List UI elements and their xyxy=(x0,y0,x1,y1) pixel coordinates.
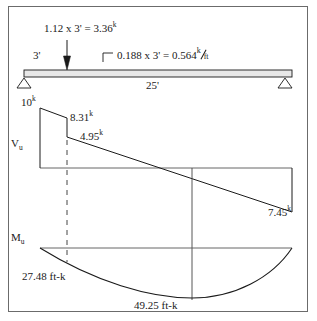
dist-load-leader-line xyxy=(103,53,113,62)
moment-axis-label: Mu xyxy=(11,232,25,243)
structural-beam-figure: 1.12 x 3' = 3.36k 3' 0.188 x 3' = 0.564k… xyxy=(0,0,317,321)
shear-left-value-label: 10k xyxy=(21,97,36,108)
moment-max-label: 49.25 ft-k xyxy=(134,300,177,311)
point-load-offset-label: 3' xyxy=(33,50,40,61)
beam-body xyxy=(24,70,292,77)
shear-right-value-label: 7.45k xyxy=(268,207,291,218)
shear-above-step-label: 8.31k xyxy=(70,112,93,123)
shear-diagram-group xyxy=(40,108,292,300)
moment-curve xyxy=(40,248,292,298)
shear-axis-label: Vu xyxy=(11,138,23,149)
shear-below-step-label: 4.95k xyxy=(80,131,103,142)
distributed-load-label: 0.188 x 3' = 0.564kft xyxy=(117,50,210,61)
left-support-icon xyxy=(17,78,31,88)
span-length-label: 25' xyxy=(146,80,159,91)
moment-diagram-group xyxy=(40,248,292,298)
shear-segment-after-load xyxy=(67,137,292,212)
kip-per-foot-fraction: kft xyxy=(197,50,210,61)
point-load-arrow-head xyxy=(64,56,71,70)
shear-segment-before-load xyxy=(40,108,67,118)
right-support-icon xyxy=(278,78,292,88)
moment-at-point-load-label: 27.48 ft-k xyxy=(22,271,65,282)
point-load-label: 1.12 x 3' = 3.36k xyxy=(44,23,116,34)
